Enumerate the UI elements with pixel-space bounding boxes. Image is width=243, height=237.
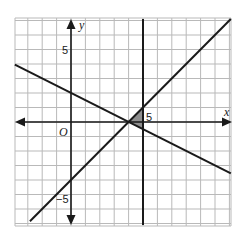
x-axis-label: x — [223, 105, 230, 119]
origin-label: O — [59, 125, 68, 139]
line-y-equals-neg-half-x-plus-2 — [15, 65, 231, 174]
coordinate-graph: y x O 5 5 −5 — [0, 0, 243, 237]
y-tick-neg-5: −5 — [56, 193, 69, 205]
y-axis-label: y — [78, 18, 85, 32]
y-tick-5: 5 — [62, 44, 68, 56]
x-axis-left-arrow-icon — [15, 118, 25, 127]
x-tick-5: 5 — [146, 111, 152, 123]
